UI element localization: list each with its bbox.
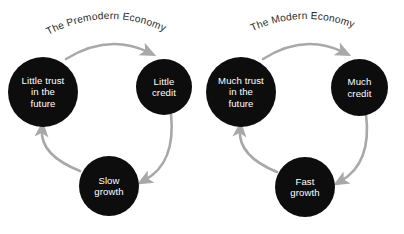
title-modern-economy: The Modern Economy xyxy=(249,10,357,33)
title-premodern-economy: The Premodern Economy xyxy=(44,10,168,37)
diagram-titles: The Premodern Economy The Modern Economy xyxy=(0,0,404,234)
diagram-canvas: The Premodern Economy The Modern Economy… xyxy=(0,0,404,234)
